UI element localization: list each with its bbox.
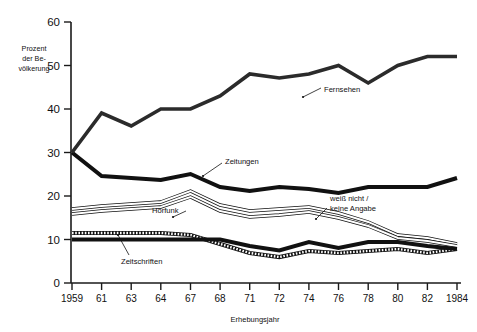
x-tick-label-74: 74 [303,293,315,304]
annotation-zeitschriften-label: Zeitschriften [121,257,162,266]
x-tick-label-67: 67 [185,293,197,304]
y-tick-labels: 60 50 40 30 20 10 0 [47,16,60,289]
y-axis-title-line-3: völkerung [18,64,49,73]
x-tick-label-61: 61 [96,293,108,304]
annotation-hoerfunk: Hörfunk [152,206,186,218]
x-tick-labels: 1959 61 63 64 67 68 71 72 74 76 78 80 82… [61,293,469,304]
x-tick-label-63: 63 [126,293,138,304]
chart-canvas: 60 50 40 30 20 10 0 1959 61 [0,0,477,332]
x-tick-label-64: 64 [155,293,167,304]
x-axis-title: Erhebungsjahr [231,315,280,324]
x-tick-label-1984: 1984 [446,293,469,304]
y-tick-label-10: 10 [47,234,60,246]
series-fernsehen [72,57,457,153]
x-tick-label-76: 76 [333,293,345,304]
y-tick-label-20: 20 [47,190,60,202]
chart-figure: 60 50 40 30 20 10 0 1959 61 [0,0,477,332]
y-tick-label-40: 40 [47,103,60,115]
x-tick-label-71: 71 [244,293,256,304]
annotation-hoerfunk-label: Hörfunk [152,206,179,215]
x-tick-label-80: 80 [392,293,404,304]
y-tick-label-0: 0 [54,277,60,289]
y-tick-label-30: 30 [47,147,60,159]
x-ticks [72,283,457,290]
y-axis-title-line-2: der Be- [22,54,46,63]
x-tick-label-72: 72 [274,293,286,304]
annotation-weiss-nicht-line-2: keine Angabe [330,204,376,213]
y-ticks [64,22,71,283]
annotation-fernsehen: Fernsehen [302,85,360,98]
x-tick-label-78: 78 [363,293,375,304]
series-zeitungen [72,153,457,194]
x-tick-label-68: 68 [215,293,227,304]
annotation-zeitungen: Zeitungen [202,157,259,177]
annotation-zeitungen-label: Zeitungen [225,157,259,166]
y-axis-title: Prozent der Be- völkerung [18,44,49,73]
annotation-fernsehen-label: Fernsehen [324,85,360,94]
y-axis-title-line-1: Prozent [22,44,47,53]
annotation-weiss-nicht-line-1: weiß nicht / [329,194,369,203]
y-tick-label-60: 60 [47,16,60,28]
x-tick-label-1959: 1959 [61,293,84,304]
x-tick-label-82: 82 [422,293,434,304]
